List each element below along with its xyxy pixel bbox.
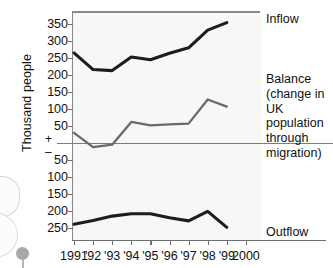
series-label-outflow: Outflow bbox=[266, 225, 308, 240]
series-line-outflow bbox=[74, 211, 227, 227]
series-line-inflow bbox=[74, 23, 227, 71]
series-label-inflow: Inflow bbox=[266, 12, 299, 27]
series-line-balance bbox=[74, 99, 227, 147]
chart-figure: Thousand people + – 35030025020015010050… bbox=[0, 0, 333, 268]
series-label-balance: Balance (change in UK population through… bbox=[266, 72, 333, 161]
